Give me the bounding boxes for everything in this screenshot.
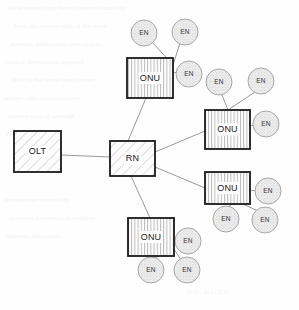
end-node-en-b1[interactable]: EN — [175, 228, 201, 254]
end-node-label: EN — [183, 237, 193, 244]
onu-node-onu-right-lower[interactable]: ONU — [205, 172, 250, 204]
end-node-label: EN — [256, 77, 266, 84]
link-line — [222, 95, 228, 110]
link-line — [61, 155, 110, 157]
onu-node-onu-right-upper-label: ONU — [217, 124, 238, 134]
end-node-en-ru1[interactable]: EN — [206, 69, 232, 95]
end-node-en-rl2[interactable]: EN — [213, 206, 239, 232]
end-node-en-b3[interactable]: EN — [174, 257, 200, 283]
topology-canvas: ENENENENENENENENENENENEN OLTRNONUONUONUO… — [0, 0, 299, 310]
onu-node-onu-top-label: ONU — [140, 73, 161, 83]
end-node-en-rl1[interactable]: EN — [255, 178, 281, 204]
end-node-en-b2[interactable]: EN — [138, 257, 164, 283]
olt-node[interactable]: OLT — [14, 131, 61, 172]
onu-node-onu-top[interactable]: ONU — [127, 58, 173, 98]
end-node-en-rl3[interactable]: EN — [252, 207, 278, 233]
end-node-label: EN — [139, 29, 149, 36]
onu-node-onu-right-lower-label: ONU — [217, 183, 238, 193]
rn-node-label: RN — [126, 153, 139, 163]
end-node-en-ru2[interactable]: EN — [248, 68, 274, 94]
end-node-label: EN — [146, 266, 156, 273]
end-node-label: EN — [261, 120, 271, 127]
link-line — [173, 43, 180, 65]
link-line — [243, 204, 258, 211]
end-node-label: EN — [260, 216, 270, 223]
end-node-en-ru3[interactable]: EN — [253, 111, 279, 137]
end-node-label: EN — [221, 215, 231, 222]
end-node-label: EN — [214, 78, 224, 85]
onu-node-onu-right-upper[interactable]: ONU — [205, 110, 250, 149]
link-line — [155, 167, 205, 188]
end-node-label: EN — [184, 70, 194, 77]
end-node-en-t1[interactable]: EN — [131, 20, 157, 46]
link-line — [128, 98, 146, 141]
link-line — [155, 131, 205, 152]
end-node-label: EN — [263, 187, 273, 194]
onu-node-onu-bottom-label: ONU — [141, 232, 162, 242]
onu-node-onu-bottom[interactable]: ONU — [128, 218, 174, 256]
end-node-en-t3[interactable]: EN — [176, 61, 202, 87]
end-node-en-t2[interactable]: EN — [172, 19, 198, 45]
rn-node[interactable]: RN — [110, 141, 155, 176]
end-node-label: EN — [180, 28, 190, 35]
link-line — [131, 176, 150, 218]
olt-node-label: OLT — [29, 146, 47, 156]
network-topology-diagram: the scanned page shows faint residual te… — [0, 0, 299, 310]
end-node-label: EN — [182, 266, 192, 273]
link-line — [228, 92, 255, 110]
